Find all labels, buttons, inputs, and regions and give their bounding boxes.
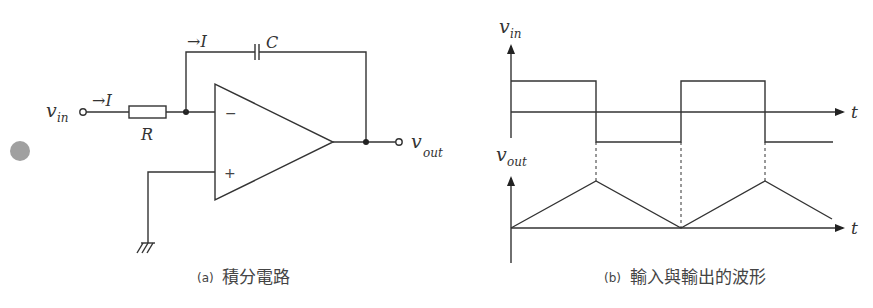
current-feedback-label: →I <box>187 32 207 51</box>
junction-output <box>363 139 369 145</box>
vin-label: v <box>46 99 57 121</box>
integrator-diagram: v in →I R →I C − + v out (a) 積分電路 v in t… <box>0 0 873 308</box>
vout-axis-label-sub: out <box>507 155 527 169</box>
caption-b-prefix: (b) <box>604 271 621 285</box>
vin-axis-label: v <box>499 15 510 37</box>
resistor-label: R <box>140 125 153 144</box>
vout-axis-label: v <box>496 143 507 165</box>
bullet-dot-icon <box>10 141 30 161</box>
vout-label: v <box>411 130 422 152</box>
resistor <box>129 106 166 118</box>
current-input-label: →I <box>92 91 112 110</box>
vout-time-label: t <box>851 218 858 238</box>
vout-triangle-wave <box>511 181 832 228</box>
vin-time-label: t <box>851 102 858 122</box>
waveform-plots <box>511 46 843 263</box>
caption-a-text: 積分電路 <box>222 267 290 287</box>
capacitor-label: C <box>266 33 278 52</box>
vin-axis-label-sub: in <box>510 27 522 41</box>
caption-b-text: 輸入與輸出的波形 <box>630 267 766 287</box>
inverting-input-sign: − <box>225 105 237 121</box>
op-amp <box>215 84 333 200</box>
noninverting-input-sign: + <box>224 165 236 181</box>
caption-a-prefix: (a) <box>197 271 214 285</box>
integrator-circuit <box>80 44 402 253</box>
vin-label-sub: in <box>57 111 69 125</box>
vout-label-sub: out <box>423 146 443 160</box>
input-terminal <box>80 109 86 115</box>
output-terminal <box>396 139 402 145</box>
